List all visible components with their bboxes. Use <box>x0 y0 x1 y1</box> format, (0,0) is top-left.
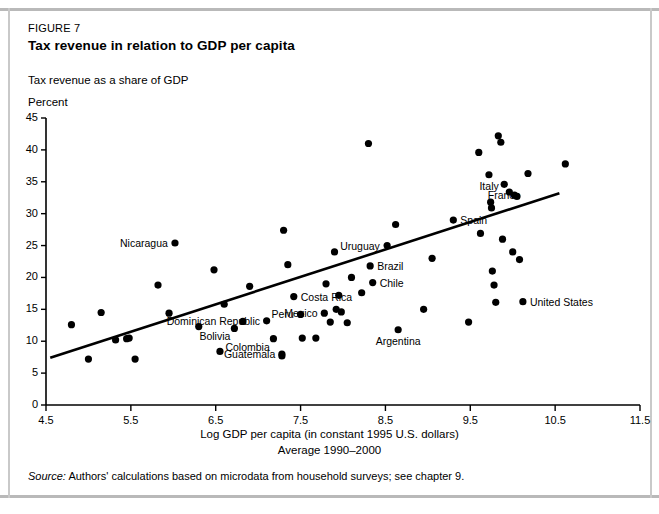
data-point <box>348 274 355 281</box>
data-point-label: Costa Rica <box>301 291 352 303</box>
data-point <box>477 230 484 237</box>
source-prefix: Source: <box>28 470 66 482</box>
data-point <box>126 334 133 341</box>
data-point <box>112 336 119 343</box>
figure-number: FIGURE 7 <box>28 22 80 34</box>
data-point-label: Dominican Republic <box>167 315 260 327</box>
data-point <box>98 309 105 316</box>
data-point <box>485 171 492 178</box>
y-axis-tick-label: 0 <box>12 398 38 410</box>
data-point-label: United States <box>530 296 593 308</box>
source-text: Authors' calculations based on microdata… <box>68 470 464 482</box>
x-axis-tick-label: 8.5 <box>359 414 411 426</box>
data-point <box>123 335 130 342</box>
data-point <box>322 280 329 287</box>
data-point <box>312 334 319 341</box>
x-axis-tick-label: 6.5 <box>190 414 242 426</box>
data-point <box>499 236 506 243</box>
y-axis-tick-label: 35 <box>12 175 38 187</box>
data-point <box>475 149 482 156</box>
y-axis-tick-label: 25 <box>12 239 38 251</box>
x-axis-tick-label: 11.5 <box>614 414 659 426</box>
y-axis-tick-label: 45 <box>12 111 38 123</box>
x-axis-title: Log GDP per capita (in constant 1995 U.S… <box>0 428 659 440</box>
data-point-label: France <box>488 189 521 201</box>
data-point <box>154 281 161 288</box>
data-point <box>465 318 472 325</box>
y-axis-tick-label: 10 <box>12 334 38 346</box>
data-point <box>367 262 374 269</box>
y-axis-unit-label: Percent <box>28 96 68 108</box>
data-point <box>344 319 351 326</box>
y-axis-tick-label: 40 <box>12 143 38 155</box>
data-point <box>495 132 502 139</box>
y-axis-tick-label: 15 <box>12 302 38 314</box>
data-point <box>338 308 345 315</box>
data-point <box>331 248 338 255</box>
data-point <box>221 301 228 308</box>
data-point <box>246 283 253 290</box>
data-point <box>420 306 427 313</box>
data-point-label: Spain <box>460 214 487 226</box>
data-point <box>278 350 285 357</box>
x-axis-tick-label: 10.5 <box>529 414 581 426</box>
data-point <box>501 181 508 188</box>
data-point <box>516 256 523 263</box>
data-point <box>392 221 399 228</box>
source-note: Source: Authors' calculations based on m… <box>28 470 464 482</box>
chart-subtitle: Tax revenue as a share of GDP <box>28 74 188 86</box>
data-point <box>509 248 516 255</box>
data-point-label: Argentina <box>376 335 421 347</box>
y-axis-tick-label: 20 <box>12 270 38 282</box>
data-point <box>358 289 365 296</box>
data-point <box>365 140 372 147</box>
data-point <box>369 279 376 286</box>
x-axis-tick-label: 4.5 <box>20 414 72 426</box>
data-point-label: Mexico <box>284 307 317 319</box>
data-point <box>299 334 306 341</box>
data-point <box>497 139 504 146</box>
data-point <box>210 266 217 273</box>
data-point-label: Uruguay <box>340 240 380 252</box>
data-point <box>270 335 277 342</box>
data-point <box>450 216 457 223</box>
data-point <box>384 242 391 249</box>
data-point <box>280 227 287 234</box>
y-axis-tick-label: 30 <box>12 207 38 219</box>
x-axis-tick-label: 9.5 <box>444 414 496 426</box>
y-axis-tick-label: 5 <box>12 366 38 378</box>
data-point <box>278 352 285 359</box>
data-point <box>562 160 569 167</box>
data-point-label: Chile <box>380 277 404 289</box>
x-axis-tick-label: 7.5 <box>275 414 327 426</box>
x-axis-tick-label: 5.5 <box>105 414 157 426</box>
data-point <box>321 310 328 317</box>
data-point <box>284 261 291 268</box>
data-point <box>263 317 270 324</box>
bottom-rule <box>0 495 659 498</box>
data-point <box>216 348 223 355</box>
top-rule <box>0 8 659 11</box>
data-point <box>290 293 297 300</box>
left-frame-line <box>8 8 10 498</box>
data-point <box>68 321 75 328</box>
data-point <box>171 239 178 246</box>
data-point-label: Brazil <box>377 260 403 272</box>
data-point <box>490 281 497 288</box>
data-point <box>429 255 436 262</box>
figure-container: FIGURE 7 Tax revenue in relation to GDP … <box>0 0 659 514</box>
x-axis-subtitle: Average 1990–2000 <box>0 444 659 456</box>
data-point <box>327 318 334 325</box>
data-point-label: Nicaragua <box>120 237 168 249</box>
data-point <box>489 267 496 274</box>
data-point <box>492 299 499 306</box>
data-point-label: Guatemala <box>224 348 275 360</box>
data-point <box>519 298 526 305</box>
data-point <box>488 204 495 211</box>
data-point <box>132 355 139 362</box>
figure-title: Tax revenue in relation to GDP per capit… <box>28 38 295 53</box>
data-point <box>524 170 531 177</box>
data-point <box>333 306 340 313</box>
data-point <box>85 355 92 362</box>
data-point <box>395 326 402 333</box>
